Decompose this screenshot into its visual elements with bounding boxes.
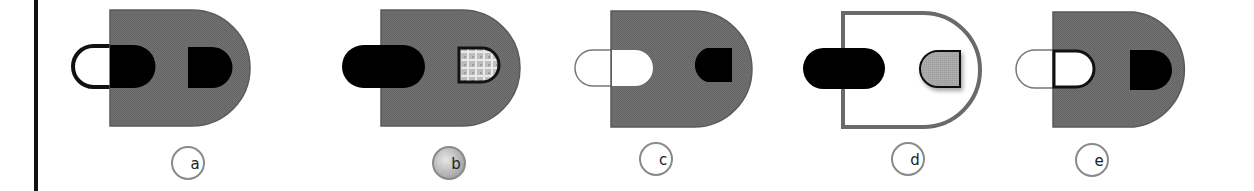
option-a-label-text: a [190,155,199,173]
option-a-label[interactable]: a [172,147,204,179]
pill-overlap-shape [612,50,653,86]
inner-d-shape [1130,50,1172,90]
inner-d-shape [459,48,499,82]
inner-d-shape [695,48,732,82]
option-b-label-text: b [451,155,461,173]
option-d-label[interactable]: d [892,143,924,175]
option-e-figure[interactable] [1016,12,1184,127]
pill-overlap-shape [110,45,156,88]
option-b-figure[interactable] [342,10,520,126]
option-e-label[interactable]: e [1076,144,1108,176]
option-c-figure[interactable] [575,11,752,127]
pill-shape [342,45,425,88]
option-c-label-text: c [659,151,667,169]
option-d-label-text: d [910,151,920,169]
option-b-label[interactable]: b [433,147,465,179]
option-d-figure[interactable] [803,13,980,127]
option-a-figure[interactable] [73,10,250,126]
pill-overlap-shape [1054,51,1094,87]
option-e-label-text: e [1094,152,1103,170]
option-c-label[interactable]: c [640,143,672,175]
inner-d-shape [920,51,960,87]
inner-d-shape [188,47,232,88]
pill-shape [803,48,885,89]
